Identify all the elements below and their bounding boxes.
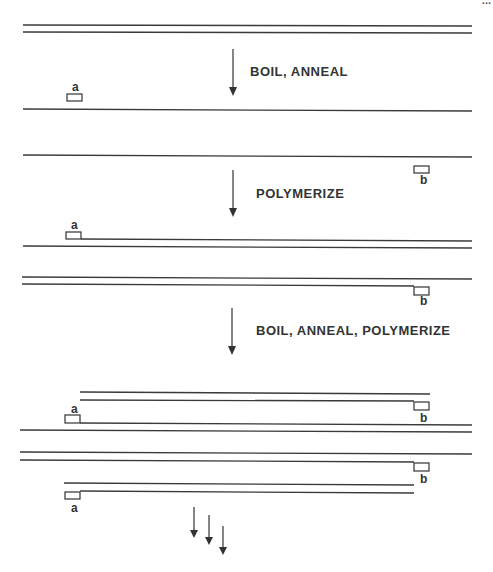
product-strand-b: [80, 400, 414, 401]
arrow-down-icon: [219, 526, 227, 555]
primer-a-box: [65, 492, 80, 499]
primer-b-label: b: [420, 472, 427, 486]
primer-a-box: [65, 415, 80, 423]
primer-b-box: [414, 166, 429, 173]
extended-strand-a: [80, 423, 472, 425]
template-strand: [23, 246, 472, 248]
primer-b-box: [414, 402, 429, 410]
primer-b-label: b: [420, 294, 427, 308]
primer-a-label: a: [71, 402, 78, 416]
template-strand-top: [23, 25, 472, 26]
template-strand: [20, 452, 472, 454]
step-label-boil-anneal-polymerize: BOIL, ANNEAL, POLYMERIZE: [256, 323, 451, 338]
product-strand: [64, 483, 414, 485]
arrow-down-icon: [229, 170, 237, 217]
extended-strand-b: [22, 284, 414, 286]
arrow-down-icon: [229, 49, 237, 96]
template-strand: [22, 277, 472, 279]
step-label-polymerize: POLYMERIZE: [256, 186, 344, 201]
primer-a-label: a: [71, 218, 78, 232]
primer-b-label: b: [420, 411, 427, 425]
single-strand-2: [23, 155, 472, 157]
primer-b-box: [414, 463, 429, 471]
extended-strand-b: [20, 460, 414, 462]
single-strand-1: [23, 109, 472, 111]
primer-a-label: a: [71, 501, 78, 515]
product-strand: [80, 392, 430, 394]
primer-a-label: a: [72, 80, 79, 94]
arrow-down-icon: [190, 507, 198, 538]
product-strand-a: [80, 491, 414, 493]
primer-a-box: [67, 94, 82, 101]
step-label-boil-anneal: BOIL, ANNEAL: [250, 64, 348, 79]
primer-a-box: [66, 232, 81, 239]
extended-strand-a: [81, 239, 472, 241]
template-strand: [20, 430, 472, 432]
arrow-down-icon: [205, 515, 213, 545]
arrow-down-icon: [228, 308, 236, 355]
primer-b-label: b: [420, 173, 427, 187]
template-strand-bottom: [23, 32, 472, 33]
